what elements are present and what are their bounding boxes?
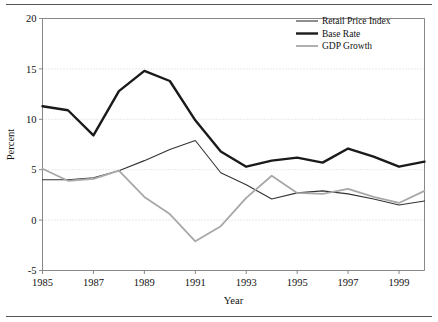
legend-label: GDP Growth (322, 41, 372, 51)
y-tick-label: 15 (26, 64, 37, 75)
legend-label: Base Rate (322, 29, 360, 39)
x-tick-label: 1991 (185, 277, 206, 288)
y-tick-labels: -505101520 (26, 13, 37, 276)
figure-container: -505101520 19851987198919911993199519971… (0, 0, 438, 322)
y-tick-label: -5 (28, 265, 37, 276)
x-tick-labels: 19851987198919911993199519971999 (32, 277, 410, 288)
x-tick-label: 1993 (236, 277, 257, 288)
x-axis-title: Year (224, 295, 244, 306)
axis-ticks (39, 19, 399, 275)
series-line-base-rate (43, 71, 425, 167)
x-tick-label: 1989 (134, 277, 155, 288)
x-tick-label: 1997 (338, 277, 359, 288)
x-tick-label: 1999 (389, 277, 410, 288)
x-tick-label: 1995 (287, 277, 308, 288)
x-tick-label: 1987 (83, 277, 104, 288)
y-axis-title: Percent (5, 129, 16, 161)
y-tick-label: 5 (31, 164, 36, 175)
axis-lines (43, 19, 425, 271)
legend-label: Retail Price Index (322, 16, 391, 26)
y-tick-label: 20 (26, 13, 37, 24)
data-series (43, 71, 425, 241)
series-line-gdp-growth (43, 169, 425, 242)
chart-legend: Retail Price IndexBase RateGDP Growth (296, 16, 391, 51)
y-tick-label: 10 (26, 114, 37, 125)
line-chart: -505101520 19851987198919911993199519971… (0, 0, 438, 322)
y-tick-label: 0 (31, 215, 36, 226)
x-tick-label: 1985 (32, 277, 53, 288)
